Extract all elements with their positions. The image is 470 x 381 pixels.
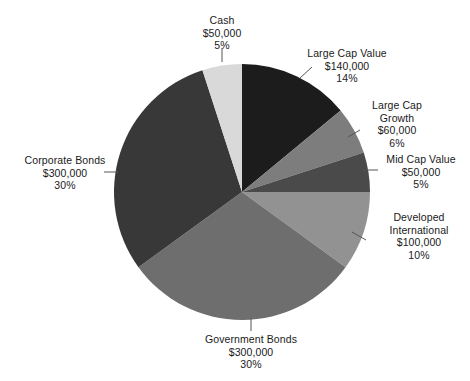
- slice-label-mid-cap-value-name: Mid Cap Value: [375, 153, 467, 166]
- slice-label-cash-name: Cash: [178, 14, 266, 27]
- pie-slices: [114, 64, 370, 320]
- slice-label-corporate-bonds-name: Corporate Bonds: [14, 154, 116, 167]
- slice-label-developed-international-name-line1: Developed: [372, 211, 466, 224]
- slice-label-cash-amount: $50,000: [178, 27, 266, 40]
- slice-label-large-cap-value-name: Large Cap Value: [288, 47, 406, 60]
- slice-label-cash: Cash $50,000 5%: [178, 14, 266, 52]
- slice-label-mid-cap-value-percent: 5%: [375, 178, 467, 191]
- slice-label-developed-international-name-line2: International: [372, 224, 466, 237]
- slice-label-government-bonds-amount: $300,000: [190, 346, 312, 359]
- slice-label-corporate-bonds: Corporate Bonds $300,000 30%: [14, 154, 116, 192]
- slice-label-mid-cap-value-amount: $50,000: [375, 166, 467, 179]
- slice-label-corporate-bonds-amount: $300,000: [14, 167, 116, 180]
- pie-chart: Cash $50,000 5% Large Cap Value $140,000…: [0, 0, 470, 381]
- slice-label-developed-international-amount: $100,000: [372, 236, 466, 249]
- slice-label-large-cap-value-percent: 14%: [288, 72, 406, 85]
- slice-label-large-cap-growth-name-line2: Growth: [356, 112, 438, 125]
- slice-label-large-cap-growth-amount: $60,000: [356, 124, 438, 137]
- slice-label-mid-cap-value: Mid Cap Value $50,000 5%: [375, 153, 467, 191]
- slice-label-government-bonds: Government Bonds $300,000 30%: [190, 333, 312, 371]
- slice-label-developed-international: Developed International $100,000 10%: [372, 211, 466, 261]
- slice-label-developed-international-percent: 10%: [372, 249, 466, 262]
- slice-label-large-cap-growth-percent: 6%: [356, 137, 438, 150]
- slice-label-large-cap-growth: Large Cap Growth $60,000 6%: [356, 99, 438, 149]
- slice-label-large-cap-growth-name-line1: Large Cap: [356, 99, 438, 112]
- slice-label-large-cap-value: Large Cap Value $140,000 14%: [288, 47, 406, 85]
- slice-label-government-bonds-percent: 30%: [190, 358, 312, 371]
- slice-label-corporate-bonds-percent: 30%: [14, 179, 116, 192]
- slice-label-cash-percent: 5%: [178, 39, 266, 52]
- slice-label-government-bonds-name: Government Bonds: [190, 333, 312, 346]
- slice-label-large-cap-value-amount: $140,000: [288, 60, 406, 73]
